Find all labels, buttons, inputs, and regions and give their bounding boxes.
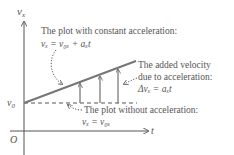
added-velocity-caption-2: due to acceleration: (138, 72, 212, 82)
y-axis-label: vx (17, 5, 26, 19)
added-velocity-caption-1: The added velocity (138, 60, 211, 70)
velocity-time-diagram: vx t O v0 The plot with constant acceler… (0, 0, 234, 155)
origin-label: O (10, 134, 17, 145)
no-accel-formula: vₓ = v₀ₓ (82, 117, 111, 127)
x-axis-label: t (151, 125, 154, 136)
accel-plot-formula: vₓ = v₀ₓ + aₓt (41, 39, 91, 49)
no-accel-caption: The plot without acceleration: (84, 105, 198, 115)
v0-label: v0 (7, 97, 15, 110)
accel-plot-caption: The plot with constant acceleration: (41, 26, 177, 36)
added-velocity-pointer-dotted (124, 78, 137, 84)
accel-pointer-dotted (51, 50, 62, 84)
added-velocity-formula: Δvₓ = aₓt (137, 84, 172, 94)
no-accel-pointer-dotted (68, 105, 82, 110)
